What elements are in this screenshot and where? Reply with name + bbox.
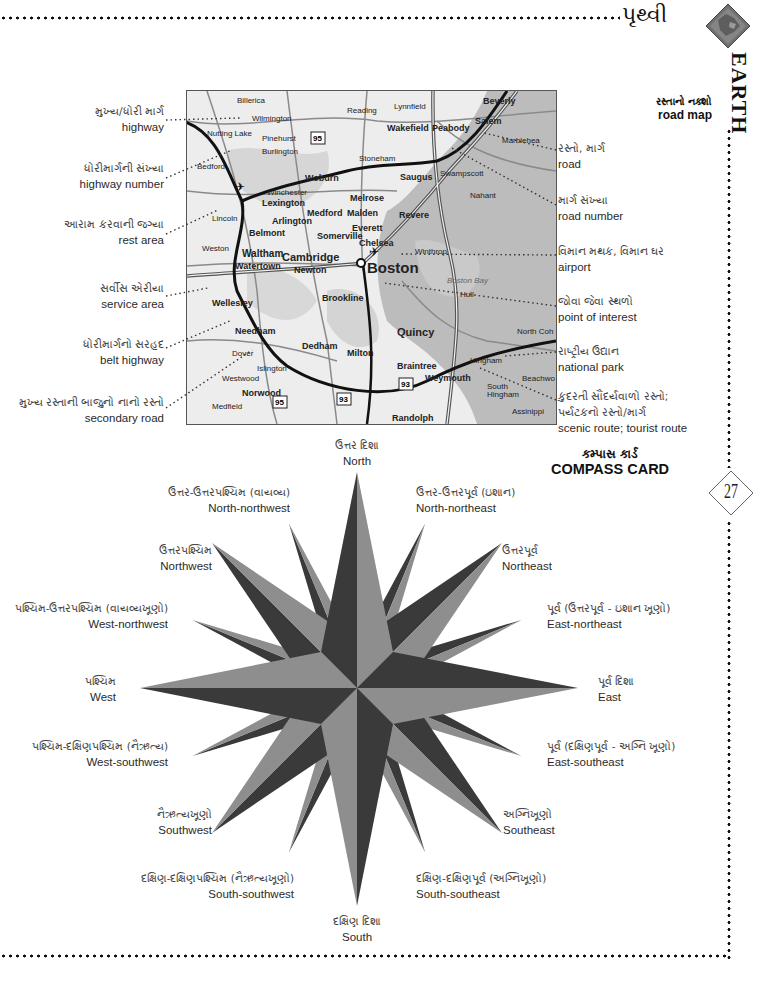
compass-label-southeast: અગ્નિખૂણોSoutheast xyxy=(503,806,623,838)
compass-label-northeast: ઉત્તરપૂર્વNortheast xyxy=(502,542,622,574)
compass-label-south-southwest: દક્ષિણ-દક્ષિણપશ્ચિમ (નૈઋત્યખૂણો)South-so… xyxy=(100,870,294,902)
compass-label-west-southwest: પશ્ચિમ-દક્ષિણપશ્ચિમ (નૈઋત્ય)West-southwe… xyxy=(0,738,168,770)
compass-label-east-southeast: પૂર્વ (દક્ષિણપૂર્વ - અગ્નિ ખૂણો)East-sou… xyxy=(547,738,727,770)
compass-label-south: દક્ષિણ દિશાSouth xyxy=(307,913,407,945)
compass-label-south-southeast: દક્ષિણ-દક્ષિણપૂર્વ (અગ્નિખૂણો)South-sout… xyxy=(416,870,616,902)
compass-label-east: પૂર્વ દિશાEast xyxy=(598,673,698,705)
compass-label-east-northeast: પૂર્વ (ઉત્તરપૂર્વ - ઇશાન ખૂણો)East-north… xyxy=(547,600,727,632)
compass-label-west-northwest: પશ્ચિમ-ઉત્તરપશ્ચિમ (વાયવ્યખૂણો)West-nort… xyxy=(0,600,168,632)
compass-label-southwest: નૈઋત્યખૂણોSouthwest xyxy=(100,806,212,838)
compass-label-north-northeast: ઉત્તર-ઉત્તરપૂર્વ (ઇશાન)North-northeast xyxy=(416,484,616,516)
compass-label-west: પશ્ચિમWest xyxy=(0,673,116,705)
compass-label-north-northwest: ઉત્તર-ઉત્તરપશ્ચિમ (વાયવ્ય)North-northwes… xyxy=(100,484,290,516)
compass-cardinal-points xyxy=(140,472,578,906)
compass-label-north: ઉત્તર દિશાNorth xyxy=(307,437,407,469)
compass-label-northwest: ઉત્તરપશ્ચિમNorthwest xyxy=(100,542,212,574)
